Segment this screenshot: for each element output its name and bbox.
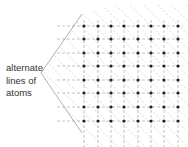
atom-dot (162, 51, 165, 54)
atom-dot (122, 105, 125, 108)
alternate-lines-label: alternate lines of atoms (6, 62, 43, 100)
atom-dot (96, 51, 99, 54)
atom-dot (109, 105, 112, 108)
atom-dot (122, 24, 125, 27)
atom-dot (176, 51, 179, 54)
atom-dot (162, 91, 165, 94)
atom-dot (149, 78, 152, 81)
atom-dot (162, 78, 165, 81)
atom-dot (176, 64, 179, 67)
bracket-pointer (41, 14, 82, 133)
atom-dot (136, 37, 139, 40)
atom-dot (149, 119, 152, 122)
atom-dot (82, 119, 85, 122)
atom-dot (149, 24, 152, 27)
atom-dot (149, 105, 152, 108)
atom-dot (136, 24, 139, 27)
atom-dot (122, 119, 125, 122)
atom-dot (149, 37, 152, 40)
atom-dot (82, 105, 85, 108)
atom-dot (82, 78, 85, 81)
atom-dot (109, 119, 112, 122)
diagonal-line (186, 5, 188, 145)
atom-dot (96, 37, 99, 40)
atom-dot (109, 37, 112, 40)
diagonal-line (74, 5, 188, 145)
atom-dot (162, 119, 165, 122)
label-line-3: atoms (6, 87, 43, 100)
atom-dot (122, 91, 125, 94)
atom-dot (149, 64, 152, 67)
atom-dot (162, 105, 165, 108)
atom-dot (176, 105, 179, 108)
atom-dot (136, 105, 139, 108)
atom-dot (162, 64, 165, 67)
atom-dot (149, 51, 152, 54)
atom-dot (162, 24, 165, 27)
atom-dot (136, 51, 139, 54)
atom-dot (136, 119, 139, 122)
atom-dot (162, 37, 165, 40)
label-line-2: lines of (6, 75, 43, 88)
atom-dot (82, 24, 85, 27)
atom-dot (176, 78, 179, 81)
atom-dot (82, 64, 85, 67)
atom-dot (136, 91, 139, 94)
atom-dot (109, 91, 112, 94)
atom-dot (122, 51, 125, 54)
atom-dot (176, 24, 179, 27)
atom-dot (109, 51, 112, 54)
atom-dot (96, 78, 99, 81)
atom-dot (96, 64, 99, 67)
atom-dot (96, 91, 99, 94)
atom-dot (96, 24, 99, 27)
atom-dot (176, 91, 179, 94)
atom-dot (109, 78, 112, 81)
atom-dot (176, 119, 179, 122)
atom-dot (109, 24, 112, 27)
atom-dot (96, 105, 99, 108)
atom-dot (136, 64, 139, 67)
atom-dot (176, 37, 179, 40)
atom-dot (96, 119, 99, 122)
atom-dot (122, 64, 125, 67)
atom-dot (122, 37, 125, 40)
atoms (82, 24, 179, 122)
atom-dot (136, 78, 139, 81)
atom-dot (109, 64, 112, 67)
atom-dot (82, 91, 85, 94)
atom-dot (122, 78, 125, 81)
atom-dot (82, 37, 85, 40)
label-line-1: alternate (6, 62, 43, 75)
atom-dot (82, 51, 85, 54)
atom-dot (149, 91, 152, 94)
